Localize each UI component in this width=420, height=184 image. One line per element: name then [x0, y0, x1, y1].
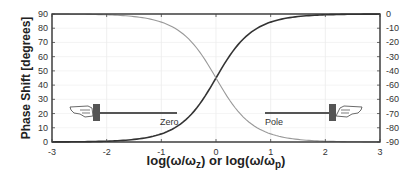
y2-tick-label: -10 — [386, 23, 399, 33]
zero-annotation: Zero — [70, 104, 179, 127]
y2-tick-label: 0 — [386, 9, 391, 19]
y2-tick-label: -30 — [386, 52, 399, 62]
y-tick-label: 40 — [38, 80, 48, 90]
y2-tick-label: -60 — [386, 80, 399, 90]
y-tick-label: 10 — [38, 123, 48, 133]
y-tick-label: 50 — [38, 66, 48, 76]
x-tick-label: 3 — [377, 147, 382, 157]
y-tick-label: 20 — [38, 109, 48, 119]
y2-tick-label: -70 — [386, 109, 399, 119]
phase-shift-chart: 0102030405060708090 0-10-20-30-40-60-60-… — [0, 0, 420, 184]
x-tick-label: -3 — [48, 147, 56, 157]
pointing-hand-right-icon — [329, 104, 362, 121]
y2-tick-label: -20 — [386, 37, 399, 47]
y2-tick-label: -40 — [386, 66, 399, 76]
y-tick-label: 70 — [38, 37, 48, 47]
pointing-hand-left-icon — [70, 104, 100, 121]
y-tick-label: 0 — [43, 137, 48, 147]
x-axis: -3-2-10123 — [48, 14, 383, 157]
y-tick-label: 90 — [38, 9, 48, 19]
x-axis-title: log(ω/ωz) or log(ω/ωp) — [147, 153, 286, 170]
y2-tick-label: -60 — [386, 94, 399, 104]
y-tick-label: 80 — [38, 23, 48, 33]
pole-label: Pole — [265, 117, 283, 127]
x-tick-label: -2 — [103, 147, 111, 157]
y-tick-label: 30 — [38, 94, 48, 104]
zero-label: Zero — [160, 117, 179, 127]
y-axis-title: Phase Shift [degrees] — [19, 17, 33, 140]
y-tick-label: 60 — [38, 52, 48, 62]
y2-tick-label: -90 — [386, 137, 399, 147]
y2-tick-label: -80 — [386, 123, 399, 133]
x-tick-label: 2 — [323, 147, 328, 157]
pole-annotation: Pole — [265, 104, 362, 127]
